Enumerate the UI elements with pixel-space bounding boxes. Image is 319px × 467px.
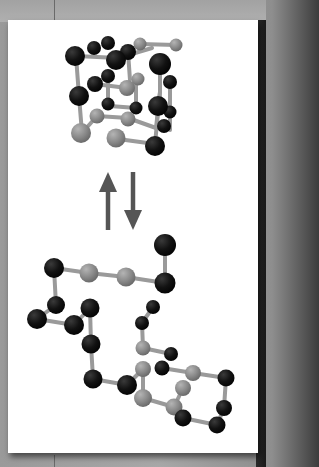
atom-dark — [148, 96, 168, 116]
chain-cluster — [27, 234, 235, 434]
atom-dark — [157, 119, 171, 133]
atom-dark — [101, 69, 115, 83]
atom-dark — [146, 300, 160, 314]
down-arrow-icon — [124, 172, 142, 230]
atom-dark — [44, 258, 64, 278]
atom-light — [71, 123, 91, 143]
equilibrium-arrows — [99, 172, 142, 230]
atom-light — [134, 38, 147, 51]
atom-light — [170, 39, 183, 52]
atom-dark — [101, 36, 115, 50]
atom-dark — [87, 41, 101, 55]
atom-dark — [135, 316, 149, 330]
atom-dark — [149, 53, 171, 75]
atom-dark — [27, 309, 47, 329]
cube-cluster — [65, 36, 183, 156]
atom-light — [117, 268, 136, 287]
atom-dark — [106, 50, 126, 70]
atom-dark — [216, 400, 232, 416]
atom-dark — [154, 234, 176, 256]
atom-dark — [47, 296, 65, 314]
atom-dark — [87, 76, 103, 92]
atom-light — [135, 361, 151, 377]
atom-dark — [81, 299, 100, 318]
atom-dark — [117, 375, 137, 395]
atom-dark — [175, 410, 192, 427]
atom-light — [134, 389, 152, 407]
atom-light — [136, 341, 151, 356]
atom-dark — [102, 98, 115, 111]
atom-dark — [164, 347, 178, 361]
atom-dark — [209, 417, 226, 434]
atom-dark — [64, 315, 84, 335]
atom-dark — [145, 136, 165, 156]
atom-dark — [84, 370, 103, 389]
atom-light — [107, 129, 126, 148]
atom-dark — [69, 86, 89, 106]
atom-light — [90, 109, 105, 124]
atom-dark — [155, 361, 170, 376]
atom-dark — [82, 335, 101, 354]
atom-dark — [218, 370, 235, 387]
atom-dark — [65, 46, 85, 66]
up-arrow-icon — [99, 172, 117, 230]
atom-dark — [155, 273, 176, 294]
atom-light — [121, 112, 136, 127]
atom-light — [119, 80, 135, 96]
atom-dark — [163, 75, 177, 89]
molecular-diagram — [0, 0, 266, 467]
atom-light — [175, 380, 191, 396]
atom-light — [80, 264, 99, 283]
atom-light — [185, 365, 201, 381]
